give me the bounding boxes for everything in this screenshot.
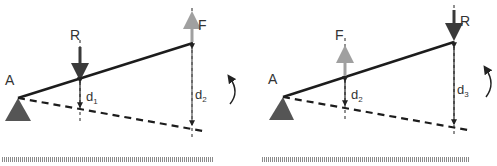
dashed-reference-line	[283, 97, 468, 130]
lever-diagram: A R F d1 d2 A F R d2 d3	[0, 0, 497, 166]
distance-label-d2: d2	[351, 87, 363, 104]
lever-beam	[18, 43, 193, 98]
pivot-support-icon	[269, 97, 294, 120]
distance-label-d2: d2	[195, 87, 207, 104]
rotation-arrow-icon	[230, 78, 235, 104]
right-panel: A F R d2 d3	[262, 5, 491, 162]
rotation-arrow-icon	[486, 69, 491, 97]
force-label-f: F	[335, 27, 344, 43]
distance-label-d1: d1	[86, 89, 98, 106]
force-label-r: R	[460, 13, 470, 29]
lever-beam	[283, 42, 454, 97]
force-label-f: F	[198, 17, 207, 33]
pivot-support-icon	[5, 98, 31, 121]
pivot-label-a: A	[5, 72, 15, 88]
force-label-r: R	[70, 27, 80, 43]
ground-hatch	[2, 157, 213, 162]
distance-label-d3: d3	[457, 82, 469, 99]
dashed-reference-line	[18, 98, 203, 131]
pivot-label-a: A	[268, 71, 278, 87]
left-panel: A R F d1 d2	[2, 8, 235, 162]
ground-hatch	[262, 157, 469, 162]
